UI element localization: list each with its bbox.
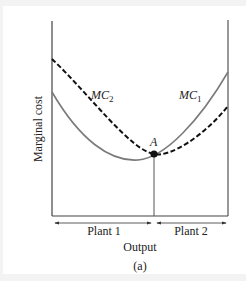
x-axis-label: Output: [123, 240, 157, 254]
marginal-cost-diagram: A MC2 MC1 Marginal cost Plant 1 Plant 2 …: [0, 0, 246, 281]
figure-caption: (a): [133, 259, 146, 273]
plant1-label: Plant 1: [87, 224, 121, 238]
mc2-label: MC2: [90, 88, 114, 104]
point-a-label: A: [149, 135, 158, 149]
y-axis-label: Marginal cost: [31, 95, 45, 162]
plant2-label: Plant 2: [174, 224, 208, 238]
equilibrium-point-a: [150, 150, 157, 157]
mc2-curve: [52, 59, 228, 154]
mc1-label: MC1: [178, 88, 202, 104]
